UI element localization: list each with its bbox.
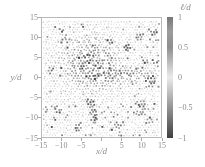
colorbar — [167, 17, 173, 138]
y-tick-label: −10 — [12, 113, 38, 122]
x-tickmark — [101, 138, 102, 141]
y-tickmark — [38, 17, 41, 18]
y-tickmark — [38, 57, 41, 58]
y-tickmark — [38, 97, 41, 98]
y-tick-label: 15 — [12, 13, 38, 22]
y-tickmark — [38, 37, 41, 38]
y-tickmark — [38, 138, 41, 139]
x-axis-label: x/d — [89, 146, 114, 156]
colorbar-tick-label: −0.5 — [178, 103, 202, 112]
y-tick-label: −15 — [12, 134, 38, 143]
figure: −15−10−551015151050−5−10−15 y/d x/d 10.5… — [0, 0, 205, 167]
y-tickmark — [38, 77, 41, 78]
y-tick-label: −5 — [12, 93, 38, 102]
y-tickmark — [38, 117, 41, 118]
scatter-canvas — [42, 18, 161, 137]
y-tick-label: 5 — [12, 53, 38, 62]
colorbar-tick-label: 0.5 — [178, 43, 202, 52]
x-tick-label: 15 — [150, 141, 174, 150]
y-axis-label: y/d — [6, 72, 26, 82]
colorbar-tick-label: 0 — [178, 73, 202, 82]
y-tick-label: 10 — [12, 33, 38, 42]
colorbar-label: ℓ/d — [173, 2, 198, 12]
plot-area — [41, 17, 162, 138]
colorbar-tick-label: 1 — [178, 13, 202, 22]
colorbar-tick-label: −1 — [178, 134, 202, 143]
